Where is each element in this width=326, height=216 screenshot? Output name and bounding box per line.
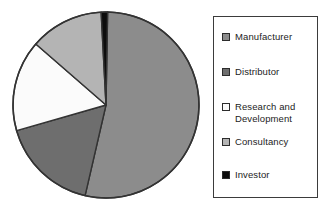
legend-label-investor: Investor [235, 169, 270, 181]
legend-item-consultancy[interactable]: Consultancy [222, 136, 313, 148]
legend-item-research-and-development[interactable]: Research and Development [222, 101, 313, 124]
chart-legend: Manufacturer Distributor Research and De… [213, 16, 318, 198]
legend-item-manufacturer[interactable]: Manufacturer [222, 31, 313, 43]
pie-svg [8, 6, 208, 210]
legend-swatch-manufacturer [222, 33, 230, 41]
legend-item-distributor[interactable]: Distributor [222, 66, 313, 78]
legend-swatch-investor [222, 171, 230, 179]
legend-label-research-and-development: Research and Development [235, 101, 295, 124]
legend-label-distributor: Distributor [235, 66, 279, 78]
legend-item-list: Manufacturer Distributor Research and De… [214, 17, 317, 197]
pie-chart-figure: Manufacturer Distributor Research and De… [0, 0, 326, 216]
legend-item-investor[interactable]: Investor [222, 169, 313, 181]
legend-label-manufacturer: Manufacturer [235, 31, 292, 43]
legend-swatch-distributor [222, 68, 230, 76]
legend-swatch-research-and-development [222, 103, 230, 111]
legend-swatch-consultancy [222, 138, 230, 146]
legend-label-consultancy: Consultancy [235, 136, 288, 148]
pie-slice-group [13, 12, 199, 198]
pie-chart-plot-area [8, 6, 208, 210]
